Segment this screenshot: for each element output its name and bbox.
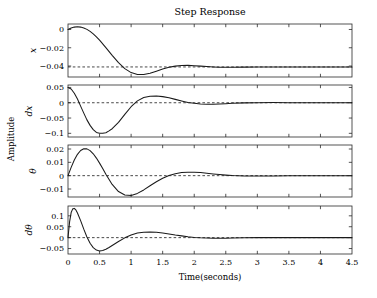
y-axis-label: Amplitude [6,117,16,162]
x-tick-label: 4.5 [346,258,359,267]
x-tick-label: 3 [255,258,260,267]
step-response-figure: Step Response0−0.02−0.04x0.050−0.05−0.1d… [0,0,377,298]
y-tick-label: 0 [59,172,64,181]
y-tick-label: −0.01 [39,185,64,194]
y-tick-label: 0 [59,99,64,108]
x-tick-label: 4 [318,258,323,267]
y-tick-label: 0.1 [51,212,64,221]
subplot-x: 0−0.02−0.04x [28,24,352,77]
y-tick-label: 0.02 [46,145,64,154]
subplot-dx: 0.050−0.05−0.1dx [24,83,352,138]
subplot-ylabel-theta: θ [28,168,38,174]
subplot-ylabel-dx: dx [24,106,34,117]
x-tick-label: 3.5 [283,258,296,267]
y-tick-label: 0.01 [46,158,64,167]
chart-title: Step Response [174,6,245,17]
x-tick-label: 1.5 [156,258,169,267]
response-curve-dx [68,87,352,133]
plot-frame [68,24,352,77]
response-curve-dtheta [68,208,352,251]
y-tick-label: −0.1 [45,129,64,138]
x-tick-label: 1 [129,258,134,267]
x-tick-label: 0.5 [93,258,106,267]
y-tick-label: 0 [59,25,64,34]
subplot-dtheta: 0.10.050−0.05dθ [24,206,352,254]
response-curve-theta [68,149,352,196]
x-axis-label: Time(seconds) [179,272,242,282]
y-tick-label: 0 [59,234,64,243]
y-tick-label: 0.05 [46,223,64,232]
response-curve-x [68,27,352,75]
x-tick-label: 2 [192,258,197,267]
y-tick-label: 0.05 [46,83,64,92]
y-tick-label: −0.04 [39,62,64,71]
y-tick-label: −0.05 [39,244,64,253]
x-tick-label: 2.5 [219,258,232,267]
plot-frame [68,145,352,197]
subplot-ylabel-x: x [28,48,38,53]
chart-canvas: Step Response0−0.02−0.04x0.050−0.05−0.1d… [0,0,377,298]
x-tick-label: 0 [65,258,70,267]
subplot-ylabel-dtheta: dθ [24,224,34,236]
y-tick-label: −0.05 [39,114,64,123]
y-tick-label: −0.02 [39,44,64,53]
subplot-theta: 0.020.010−0.01θ [28,145,352,197]
